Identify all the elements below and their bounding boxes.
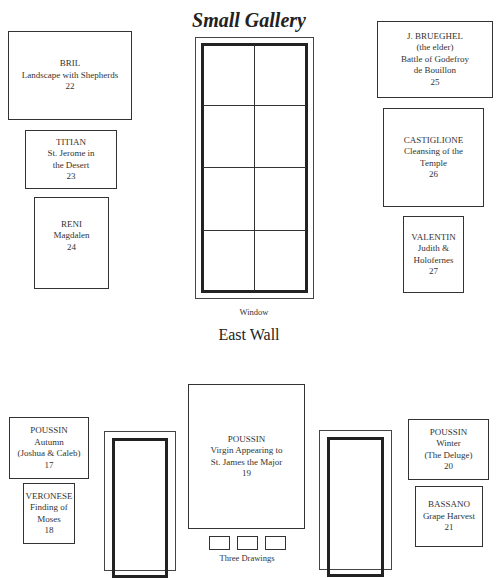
window-label: Window (204, 307, 304, 317)
painting-number: 19 (211, 468, 283, 480)
painting-number: 21 (423, 522, 475, 534)
painting-title: Moses (26, 514, 73, 526)
painting-titian[interactable]: TITIAN St. Jerome in the Desert 23 (25, 130, 117, 189)
painting-title: Battle of Godefroy (401, 54, 469, 66)
painting-title: Grape Harvest (423, 511, 475, 523)
gallery-title: Small Gallery (149, 9, 349, 32)
drawing-2[interactable] (237, 536, 258, 550)
painting-title: Magdalen (54, 230, 90, 242)
door-left (112, 438, 168, 578)
painting-number: 20 (424, 461, 472, 473)
painting-artist: POUSSIN (211, 434, 283, 446)
painting-number: 26 (404, 169, 464, 181)
painting-castiglione[interactable]: CASTIGLIONE Cleansing of the Temple 26 (383, 108, 484, 207)
drawing-3[interactable] (265, 536, 286, 550)
painting-number: 23 (47, 171, 94, 183)
painting-artist: BRIL (22, 58, 118, 70)
painting-poussin-autumn[interactable]: POUSSIN Autumn (Joshua & Caleb) 17 (9, 417, 89, 479)
window-muntin (203, 230, 306, 231)
painting-number: 22 (22, 81, 118, 93)
painting-artist: VALENTIN (411, 232, 455, 244)
painting-title: (Joshua & Caleb) (18, 448, 81, 460)
painting-title: Judith & (411, 243, 455, 255)
painting-number: 17 (18, 460, 81, 472)
painting-veronese[interactable]: VERONESE Finding of Moses 18 (23, 483, 75, 544)
painting-reni[interactable]: RENI Magdalen 24 (34, 197, 109, 289)
painting-artist: CASTIGLIONE (404, 135, 464, 147)
painting-title: (The Deluge) (424, 450, 472, 462)
drawings-label: Three Drawings (197, 553, 297, 563)
painting-poussin-virgin[interactable]: POUSSIN Virgin Appearing to St. James th… (188, 384, 305, 529)
painting-artist: POUSSIN (18, 425, 81, 437)
painting-title: (the elder) (401, 42, 469, 54)
painting-title: de Bouillon (401, 65, 469, 77)
window-muntin (203, 105, 306, 106)
painting-artist: POUSSIN (424, 427, 472, 439)
painting-number: 27 (411, 266, 455, 278)
painting-title: Holofernes (411, 255, 455, 267)
painting-artist: VERONESE (26, 491, 73, 503)
painting-bril[interactable]: BRIL Landscape with Shepherds 22 (8, 31, 132, 120)
painting-number: 25 (401, 77, 469, 89)
painting-title: Finding of (26, 502, 73, 514)
painting-valentin[interactable]: VALENTIN Judith & Holofernes 27 (403, 216, 464, 293)
painting-title: Landscape with Shepherds (22, 70, 118, 82)
door-right (327, 437, 384, 577)
painting-number: 24 (54, 242, 90, 254)
painting-title: the Desert (47, 160, 94, 172)
drawing-1[interactable] (209, 536, 230, 550)
painting-artist: J. BRUEGHEL (401, 31, 469, 43)
painting-brueghel[interactable]: J. BRUEGHEL (the elder) Battle of Godefr… (377, 21, 493, 98)
painting-artist: RENI (54, 219, 90, 231)
painting-title: Temple (404, 158, 464, 170)
painting-bassano[interactable]: BASSANO Grape Harvest 21 (415, 486, 483, 547)
window-muntin (203, 167, 306, 168)
painting-title: Autumn (18, 437, 81, 449)
painting-number: 18 (26, 525, 73, 537)
painting-title: Virgin Appearing to (211, 445, 283, 457)
painting-artist: BASSANO (423, 499, 475, 511)
east-wall-label: East Wall (174, 326, 324, 344)
painting-poussin-winter[interactable]: POUSSIN Winter (The Deluge) 20 (408, 419, 489, 480)
painting-title: Cleansing of the (404, 146, 464, 158)
painting-artist: TITIAN (47, 137, 94, 149)
painting-title: St. James the Major (211, 457, 283, 469)
painting-title: Winter (424, 438, 472, 450)
painting-title: St. Jerome in (47, 148, 94, 160)
